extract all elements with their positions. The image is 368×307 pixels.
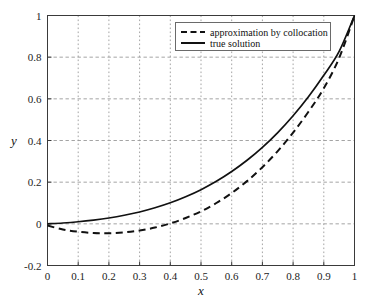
y-tick-label: 0.8 <box>28 51 42 63</box>
x-tick-label: 0.6 <box>225 270 239 282</box>
x-axis-label: x <box>197 283 204 298</box>
legend-label-true-solution: true solution <box>210 38 260 49</box>
chart-figure: 00.10.20.30.40.50.60.70.80.91 -0.200.20.… <box>0 0 368 307</box>
x-tick-label: 0.3 <box>133 270 147 282</box>
legend-label-approximation: approximation by collocation <box>210 27 328 38</box>
line-chart: 00.10.20.30.40.50.60.70.80.91 -0.200.20.… <box>0 0 368 307</box>
x-tick-label: 0.2 <box>102 270 116 282</box>
x-tick-label: 0.7 <box>256 270 270 282</box>
x-tick-label: 0.5 <box>194 270 208 282</box>
y-tick-label: -0.2 <box>24 260 41 272</box>
y-axis-label: y <box>9 133 17 148</box>
legend[interactable]: approximation by collocation true soluti… <box>176 23 331 51</box>
x-tick-label: 1 <box>352 270 358 282</box>
y-tick-label: 0 <box>36 218 42 230</box>
y-tick-label: 0.2 <box>28 176 42 188</box>
y-tick-label: 0.6 <box>28 93 42 105</box>
x-tick-label: 0.4 <box>163 270 177 282</box>
y-tick-label: 0.4 <box>28 135 42 147</box>
x-tick-label: 0.1 <box>71 270 85 282</box>
x-tick-label: 0 <box>45 270 51 282</box>
y-tick-label: 1 <box>36 10 42 22</box>
x-tick-label: 0.8 <box>286 270 300 282</box>
x-tick-label: 0.9 <box>317 270 331 282</box>
